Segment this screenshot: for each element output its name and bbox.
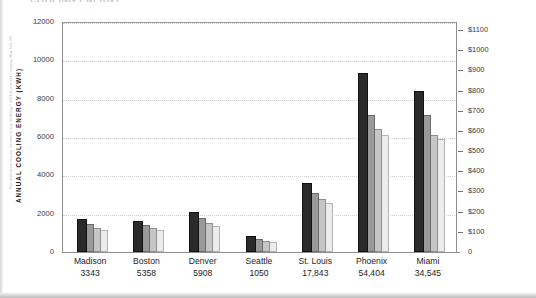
y-axis-right-tick-mark — [458, 30, 463, 31]
x-axis-category-label: Miami34,545 — [400, 256, 456, 279]
bar — [77, 219, 87, 252]
x-axis-category-label: Denver5908 — [175, 256, 231, 279]
y-axis-right-tick-mark — [458, 111, 463, 112]
bar-group — [302, 22, 333, 252]
y-axis-right-tick-label: $100 — [468, 228, 484, 235]
bar-group — [77, 22, 108, 252]
y-axis-left-tick-label: 4000 — [0, 171, 54, 179]
bar-group — [358, 22, 389, 252]
y-axis-right-tick-label: 0 — [468, 248, 472, 255]
y-axis-right-tick-mark — [458, 191, 463, 192]
y-axis-right-tick-mark — [458, 212, 463, 213]
category-value: 3343 — [62, 268, 118, 280]
category-name: Miami — [400, 256, 456, 268]
x-axis-category-label: Phoenix54,404 — [343, 256, 399, 279]
category-value: 5358 — [118, 268, 174, 280]
bar — [133, 221, 143, 252]
bar-group — [246, 22, 277, 252]
y-axis-left-tick-label: 0 — [0, 248, 54, 256]
y-axis-right-tick-mark — [458, 171, 463, 172]
y-axis-right-tick-label: $300 — [468, 187, 484, 194]
category-value: 17,843 — [287, 268, 343, 280]
y-axis-left-tick-label: 12000 — [0, 18, 54, 26]
y-axis-right-tick-label: $700 — [468, 107, 484, 114]
category-value: 5908 — [175, 268, 231, 280]
bar — [246, 236, 256, 252]
bar — [189, 212, 199, 252]
y-axis-right-tick-label: $1100 — [468, 26, 488, 33]
y-axis-right-tick-mark — [458, 151, 463, 152]
bar — [414, 91, 424, 252]
x-axis-category-label: St. Louis17,843 — [287, 256, 343, 279]
y-axis-right-tick-label: $900 — [468, 66, 484, 73]
bar — [302, 183, 312, 252]
x-axis-category-label: Boston5358 — [118, 256, 174, 279]
y-axis-left-tick-label: 2000 — [0, 210, 54, 218]
page-bottom-edge — [0, 293, 536, 298]
category-value: 54,404 — [343, 268, 399, 280]
y-axis-right-tick-mark — [458, 91, 463, 92]
category-name: Denver — [175, 256, 231, 268]
y-axis-right-tick-mark — [458, 50, 463, 51]
x-axis-category-label: Madison3343 — [62, 256, 118, 279]
y-axis-left-tick-label: 10000 — [0, 56, 54, 64]
y-axis-right-tick-label: $800 — [468, 87, 484, 94]
y-axis-right-tick-label: $1000 — [468, 46, 489, 53]
chart-page: COOLING ENERGY Reprinted by permission. … — [0, 0, 536, 298]
category-name: St. Louis — [287, 256, 343, 268]
bar-group — [133, 22, 164, 252]
category-name: Phoenix — [343, 256, 399, 268]
x-axis-baseline — [62, 252, 460, 253]
y-axis-right-tick-mark — [458, 131, 463, 132]
bar-group — [189, 22, 220, 252]
y-axis-right-tick-label: $200 — [468, 208, 484, 215]
category-value: 1050 — [231, 268, 287, 280]
category-name: Boston — [118, 256, 174, 268]
bar-group — [414, 22, 445, 252]
bar — [358, 73, 368, 252]
y-axis-right-ticks: $1100$1000$900$800$700$600$500$400$300$2… — [458, 0, 536, 298]
category-value: 34,545 — [400, 268, 456, 280]
category-name: Seattle — [231, 256, 287, 268]
y-axis-left-tick-label: 8000 — [0, 95, 54, 103]
y-axis-left-ticks: 120001000080006000400020000 — [0, 0, 56, 298]
category-name: Madison — [62, 256, 118, 268]
y-axis-right-tick-label: $400 — [468, 167, 484, 174]
y-axis-right-tick-label: $500 — [468, 147, 484, 154]
y-axis-right-tick-label: $600 — [468, 127, 484, 134]
y-axis-right-tick-mark — [458, 70, 463, 71]
y-axis-left-tick-label: 6000 — [0, 133, 54, 141]
y-axis-right-spine — [456, 22, 457, 253]
y-axis-right-tick-mark — [458, 232, 463, 233]
x-axis-category-label: Seattle1050 — [231, 256, 287, 279]
